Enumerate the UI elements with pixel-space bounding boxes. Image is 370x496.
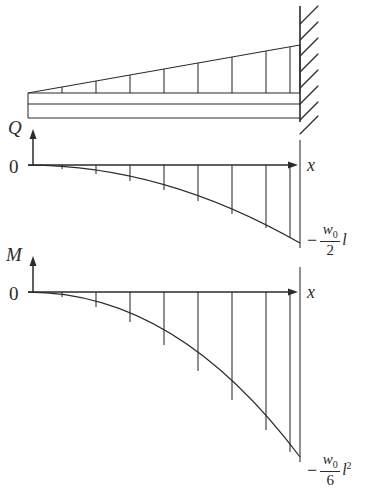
moment-diagram-group bbox=[28, 256, 300, 462]
moment-end-tail-superscript: 2 bbox=[347, 460, 352, 471]
wall-hatching bbox=[300, 6, 318, 134]
moment-end-denominator: 6 bbox=[324, 472, 336, 488]
moment-end-numerator-subscript: 0 bbox=[333, 459, 338, 470]
shear-ticks bbox=[62, 165, 290, 238]
beam-body bbox=[28, 93, 300, 118]
shear-diagram-group bbox=[28, 129, 300, 248]
shear-end-numerator: w0 bbox=[321, 222, 340, 241]
triangular-load-ticks bbox=[62, 47, 290, 93]
beam-diagram-group bbox=[28, 6, 318, 134]
moment-end-minus-sign: − bbox=[307, 461, 317, 479]
moment-end-value-label: − w0 6 l2 bbox=[307, 452, 352, 488]
shear-x-axis-label: x bbox=[307, 156, 315, 174]
figure-root: Q 0 x M 0 x − w0 2 l − w0 6 l2 bbox=[0, 0, 370, 496]
shear-end-numerator-subscript: 0 bbox=[333, 229, 338, 240]
moment-end-numerator: w0 bbox=[321, 452, 340, 471]
moment-origin-label: 0 bbox=[9, 284, 19, 303]
moment-ticks bbox=[62, 292, 290, 452]
shear-origin-label: 0 bbox=[9, 157, 19, 176]
shear-end-value-label: − w0 2 l bbox=[307, 222, 347, 258]
shear-end-tail-symbol: l bbox=[342, 232, 346, 248]
moment-end-tail-symbol: l2 bbox=[342, 461, 351, 478]
moment-axis-label: M bbox=[6, 245, 22, 264]
shear-end-denominator: 2 bbox=[324, 242, 336, 258]
moment-x-axis-label: x bbox=[307, 283, 315, 301]
moment-axis-arrowhead bbox=[30, 256, 37, 266]
shear-axis-label: Q bbox=[8, 118, 22, 137]
shear-end-minus-sign: − bbox=[307, 231, 317, 249]
shear-end-fraction: w0 2 bbox=[320, 222, 340, 258]
moment-end-fraction: w0 6 bbox=[320, 452, 340, 488]
shear-axis-arrowhead bbox=[30, 129, 37, 139]
